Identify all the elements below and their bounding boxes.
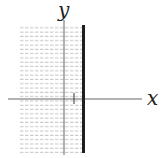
x-axis-label: x <box>147 88 158 108</box>
graph <box>0 0 161 158</box>
shaded-region <box>20 25 83 153</box>
y-axis-label: y <box>58 0 69 20</box>
